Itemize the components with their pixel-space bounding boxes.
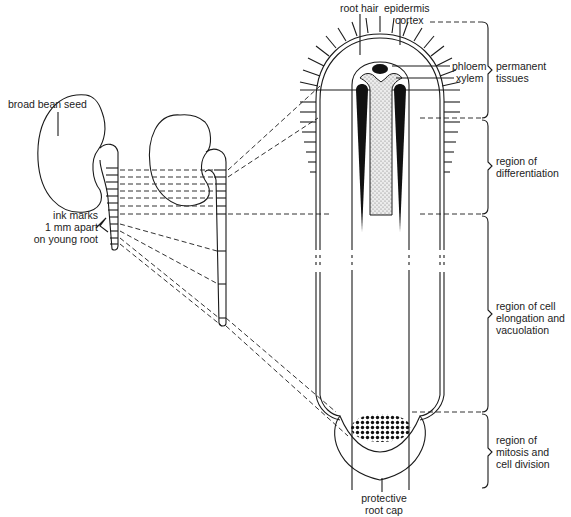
region-mitosis-2: mitosis and — [496, 446, 549, 458]
label-epidermis: epidermis — [384, 2, 430, 14]
seed-grown — [149, 115, 226, 326]
region-elongation-2: elongation and — [496, 312, 565, 324]
label-ink-marks-1: ink marks — [53, 209, 98, 221]
region-permanent-2: tissues — [496, 72, 529, 84]
region-mitosis-3: cell division — [496, 458, 550, 470]
region-permanent-1: permanent — [496, 60, 546, 72]
region-elongation-1: region of cell — [496, 300, 556, 312]
phloem-tissue — [372, 64, 388, 74]
label-xylem: xylem — [456, 72, 484, 84]
label-root-cap-2: root cap — [365, 504, 403, 516]
label-root-cap-1: protective — [361, 492, 407, 504]
meristem-cells — [351, 414, 411, 442]
correspondence-lines — [120, 22, 482, 436]
root-growth-diagram: broad bean seed ink marks 1 mm apart on … — [0, 0, 571, 517]
region-differentiation-1: region of — [496, 155, 537, 167]
region-mitosis-1: region of — [496, 434, 537, 446]
label-cortex: cortex — [395, 14, 424, 26]
label-root-hair: root hair — [340, 2, 379, 14]
label-ink-marks-3: on young root — [34, 233, 98, 245]
region-braces — [482, 22, 492, 488]
ink-marks-young — [106, 168, 118, 244]
region-elongation-3: vacuolation — [496, 324, 549, 336]
label-broad-bean-seed: broad bean seed — [8, 98, 87, 110]
label-phloem: phloem — [452, 60, 487, 72]
root-enlarged — [300, 14, 460, 492]
break-marks — [316, 255, 444, 265]
region-differentiation-2: differentiation — [496, 167, 559, 179]
label-ink-marks-2: 1 mm apart — [45, 221, 98, 233]
